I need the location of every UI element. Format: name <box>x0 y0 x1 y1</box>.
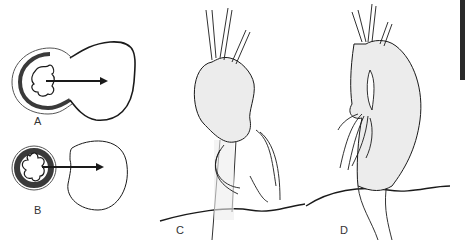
panel-label-c: C <box>176 225 184 236</box>
panel-c-saccular-view <box>160 8 305 240</box>
panel-d-fusiform-view <box>306 4 450 240</box>
panel-b-cross-section <box>12 141 127 210</box>
panel-label-a: A <box>34 116 41 127</box>
panel-a-cross-section <box>12 42 135 120</box>
edge-bar <box>460 0 465 80</box>
panel-label-d: D <box>340 225 348 236</box>
panel-label-b: B <box>34 205 41 216</box>
diagram-canvas <box>0 0 465 251</box>
